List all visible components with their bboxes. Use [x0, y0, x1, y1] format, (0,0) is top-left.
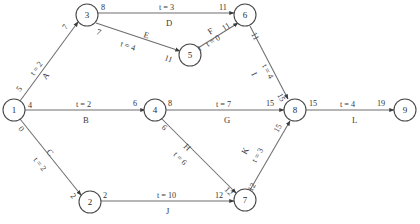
edge-H-activity: H — [182, 141, 193, 152]
edge-E-duration: t = 4 — [119, 39, 136, 52]
node-9[interactable]: 9 — [394, 99, 416, 121]
edge-A-activity: A — [40, 70, 52, 82]
edge-L-duration: t = 4 — [340, 100, 355, 109]
edge-E-activity: E — [142, 29, 150, 40]
edge-J[interactable]: t = 10 J 2 12 — [101, 191, 234, 216]
edge-I-duration: t = 4 — [260, 63, 275, 81]
node-7[interactable]: 7 — [234, 189, 256, 211]
edge-E-head-number: 11 — [163, 53, 173, 64]
node-6-label: 6 — [243, 10, 248, 20]
edge-H[interactable]: t = 6 H 6 12 — [160, 119, 236, 197]
edge-G[interactable]: t = 7 G 8 15 — [166, 99, 284, 125]
edge-B-head-number: 6 — [133, 99, 137, 108]
edge-C-head-number: 2 — [68, 192, 78, 201]
edge-L-activity: L — [352, 115, 357, 125]
edge-H-head-number: 12 — [223, 185, 235, 197]
edge-L-head-number: 19 — [377, 99, 385, 108]
node-8-label: 8 — [293, 105, 298, 115]
edge-B-duration: t = 2 — [76, 100, 91, 109]
edge-K-duration: t = 3 — [250, 146, 265, 164]
edge-E[interactable]: t = 4 E 7 11 — [95, 23, 180, 64]
edge-D[interactable]: t = 3 D 8 11 — [98, 3, 234, 28]
node-9-label: 9 — [403, 105, 408, 115]
edge-A-tail-number: 5 — [14, 85, 24, 94]
edge-D-activity: D — [166, 18, 172, 28]
node-4-label: 4 — [153, 105, 158, 115]
edge-J-head-number: 12 — [215, 191, 223, 200]
edge-K-activity: K — [239, 145, 251, 156]
node-3[interactable]: 3 — [76, 4, 98, 26]
edge-B-activity: B — [83, 115, 89, 125]
edge-C-line — [20, 119, 81, 195]
edge-G-tail-number: 8 — [168, 99, 172, 108]
node-6[interactable]: 6 — [234, 4, 256, 26]
edge-F-head-number: 11 — [220, 21, 231, 33]
edge-A[interactable]: t = 2 A 5 7 — [14, 22, 78, 101]
node-8[interactable]: 8 — [284, 99, 306, 121]
edge-B-tail-number: 4 — [28, 101, 32, 110]
edge-D-duration: t = 3 — [159, 3, 174, 12]
edge-I-activity: I — [249, 70, 259, 77]
edge-L-tail-number: 15 — [309, 99, 317, 108]
node-1-label: 1 — [12, 105, 17, 115]
edge-C[interactable]: t = 2 C 0 2 — [16, 119, 81, 200]
edge-L[interactable]: t = 4 L 15 19 — [306, 99, 394, 125]
node-1[interactable]: 1 — [3, 99, 25, 121]
edge-D-head-number: 11 — [219, 3, 227, 12]
node-5[interactable]: 5 — [179, 44, 201, 66]
node-2[interactable]: 2 — [79, 191, 101, 213]
edge-J-tail-number: 2 — [103, 191, 107, 200]
edge-G-head-number: 15 — [266, 99, 274, 108]
edge-K[interactable]: t = 3 K 12 15 — [239, 121, 290, 193]
network-diagram-canvas: t = 2 A 5 7 t = 2 B 4 6 t = 2 C 0 2 t = … — [0, 0, 420, 224]
node-4[interactable]: 4 — [144, 99, 166, 121]
edge-F-duration: t = 0 — [204, 33, 222, 49]
node-3-label: 3 — [85, 10, 90, 20]
network-svg: t = 2 A 5 7 t = 2 B 4 6 t = 2 C 0 2 t = … — [0, 0, 420, 224]
node-2-label: 2 — [88, 197, 93, 207]
edge-E-tail-number: 7 — [95, 27, 102, 37]
node-7-label: 7 — [243, 195, 248, 205]
node-5-label: 5 — [188, 50, 193, 60]
edge-I[interactable]: t = 4 I 11 15 — [249, 26, 288, 103]
edge-A-head-number: 7 — [60, 23, 70, 32]
edge-G-activity: G — [224, 115, 230, 125]
edge-J-activity: J — [166, 206, 170, 216]
edge-K-head-number: 15 — [272, 122, 284, 134]
edge-H-tail-number: 6 — [160, 123, 169, 132]
edge-J-duration: t = 10 — [157, 191, 176, 200]
edge-B[interactable]: t = 2 B 4 6 — [25, 99, 145, 125]
edge-D-tail-number: 8 — [101, 3, 105, 12]
edge-G-duration: t = 7 — [216, 100, 231, 109]
edge-A-line — [20, 22, 78, 101]
edge-I-tail-number: 11 — [249, 31, 261, 42]
edge-C-tail-number: 0 — [16, 125, 26, 134]
edge-C-duration: t = 2 — [31, 156, 47, 173]
